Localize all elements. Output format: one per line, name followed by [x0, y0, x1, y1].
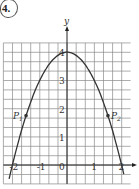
point-marker — [106, 114, 110, 118]
x-axis-arrow-icon — [132, 163, 137, 167]
point-marker — [24, 114, 28, 118]
point-label: P2 — [110, 111, 121, 122]
y-axis-arrow-icon — [65, 26, 69, 31]
parabola-chart: y-2-10121234 P1P2 — [0, 0, 139, 189]
y-tick-label: 1 — [59, 133, 65, 143]
x-tick-label: -2 — [9, 162, 18, 172]
y-tick-label: 4 — [59, 48, 65, 58]
x-tick-label: 1 — [91, 162, 97, 172]
x-tick-label: -1 — [37, 162, 46, 172]
x-tick-label: 0 — [59, 162, 65, 172]
x-tick-label: 2 — [119, 162, 125, 172]
y-tick-label: 3 — [59, 76, 65, 86]
y-axis-label: y — [63, 16, 70, 26]
axes — [3, 26, 137, 184]
y-tick-label: 2 — [59, 105, 65, 115]
